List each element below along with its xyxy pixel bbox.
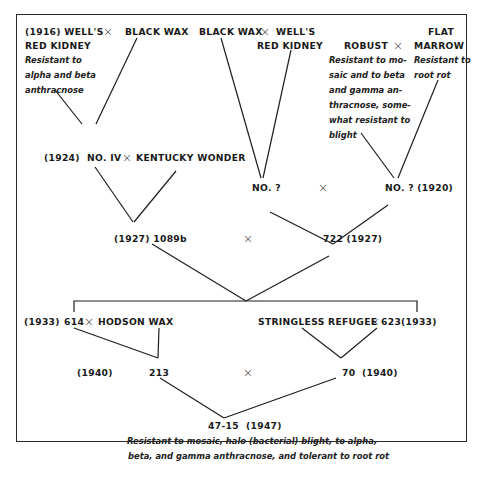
flat-marrow-notes-2: root rot [414,68,450,83]
cross-symbol: × [318,182,328,194]
wells-middle-line2: RED KIDNEY [257,40,323,52]
wells-red-kidney-1916: (1916) WELL'S [25,26,104,38]
cross-symbol: × [243,233,253,245]
line-blackwax-to-noiv [96,38,137,124]
722-1927: 722 (1927) [323,233,382,245]
no-iv-year: (1924) [44,152,80,164]
robust-notes-6: blight [329,128,357,143]
line-robust-to-no1920 [361,133,394,178]
robust-notes-5: what resistant to [329,113,410,128]
614-year: (1933) [24,316,60,328]
1089b-1927: (1927) 1089b [114,233,187,245]
result-notes-1: Resistant to mosaic, halo (bacterial) bl… [127,434,377,449]
wells-red-kidney-line2: RED KIDNEY [25,40,91,52]
cross-symbol: × [122,152,132,164]
result-4715: 47-15 [208,420,239,432]
line-kentucky-to-1089b [134,171,176,222]
cross-symbol: × [243,367,253,379]
robust-notes-1: Resistant to mo- [329,53,407,68]
line-selection-bar [74,301,417,312]
no-unknown: NO. ? [252,182,281,194]
line-1089b-to-merge [152,244,246,301]
623-year: (1933) [401,316,437,328]
kentucky-wonder: KENTUCKY WONDER [136,152,246,164]
line-hodson-to-213 [158,328,159,358]
line-70-to-4715 [224,378,336,418]
line-wells2-to-no [263,50,291,178]
no-unknown-1920: NO. ? (1920) [385,182,453,194]
213: 213 [149,367,169,379]
cross-symbol: × [103,26,113,38]
wells-notes-1: Resistant to [25,53,82,68]
cross-symbol: × [393,40,403,52]
robust: ROBUST [344,40,388,52]
line-722-to-merge [246,256,329,301]
line-stringless-to-70 [302,328,341,358]
flat-marrow-notes-1: Resistant to [414,53,471,68]
623: 623 [381,316,401,328]
flat-marrow-line1: FLAT [428,26,454,38]
line-flatmarrow-to-no1920 [398,80,438,178]
result-year: (1947) [246,420,282,432]
line-213-to-4715 [160,378,224,418]
robust-notes-3: and gamma an- [329,83,402,98]
robust-notes-2: saic and to beta [329,68,405,83]
stringless-refugee: STRINGLESS REFUGEE [258,316,377,328]
flat-marrow: MARROW [414,40,464,52]
line-614-to-213 [74,328,158,358]
black-wax-middle: BLACK WAX [199,26,263,38]
hodson-wax: HODSON WAX [98,316,173,328]
line-623-to-70 [341,328,377,358]
cross-symbol: × [260,26,270,38]
70: 70 [342,367,355,379]
wells-notes-2: alpha and beta [25,68,96,83]
no-iv: NO. IV [87,152,121,164]
robust-notes-4: thracnose, some- [329,98,411,113]
wells-notes-3: anthracnose [25,83,84,98]
cross-symbol: × [84,316,94,328]
result-notes-2: beta, and gamma anthracnose, and toleran… [128,449,389,464]
70-year: (1940) [362,367,398,379]
cross-symbol: × [370,316,380,328]
213-year: (1940) [77,367,113,379]
line-noiv-to-1089b [95,167,133,222]
black-wax-left: BLACK WAX [125,26,189,38]
614: 614 [64,316,84,328]
wells-middle: WELL'S [276,26,315,38]
